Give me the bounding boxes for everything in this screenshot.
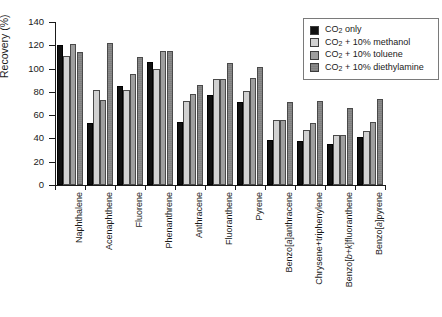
chart-figure: Recovery (%) 020406080100120140 Naphthal… bbox=[0, 0, 442, 317]
x-axis-category-label: Benzo[a]anthracene bbox=[284, 192, 294, 273]
legend-swatch bbox=[310, 26, 319, 35]
bar bbox=[327, 144, 333, 185]
bar bbox=[147, 62, 153, 185]
bar bbox=[117, 86, 123, 185]
bar bbox=[87, 123, 93, 185]
x-axis-category-label: Fluorene bbox=[134, 192, 144, 228]
bar bbox=[267, 140, 273, 185]
bar bbox=[333, 135, 339, 185]
legend-item: CO2 + 10% methanol bbox=[310, 37, 432, 50]
bar bbox=[107, 43, 113, 185]
y-tick-label: 60 bbox=[0, 109, 44, 120]
bar-group bbox=[57, 44, 84, 185]
bar bbox=[357, 137, 363, 185]
chart-legend: CO2 onlyCO2 + 10% methanolCO2 + 10% tolu… bbox=[303, 18, 439, 80]
bar bbox=[130, 74, 136, 185]
bar bbox=[317, 101, 323, 185]
legend-label: CO2 + 10% diethylamine bbox=[325, 62, 424, 74]
bar bbox=[160, 51, 166, 185]
y-tick-label: 0 bbox=[0, 179, 44, 190]
bar bbox=[213, 79, 219, 185]
bar-group bbox=[267, 102, 294, 185]
bar bbox=[57, 45, 63, 185]
bar bbox=[77, 52, 83, 185]
x-tick bbox=[145, 185, 146, 190]
bar-group bbox=[297, 101, 324, 185]
legend-swatch bbox=[310, 51, 319, 60]
legend-item: CO2 only bbox=[310, 24, 432, 37]
x-axis-category-label: Chrysene+triphenylene bbox=[314, 192, 324, 285]
y-tick-label: 40 bbox=[0, 132, 44, 143]
y-tick-label: 120 bbox=[0, 39, 44, 50]
x-axis-category-label: Benzo[b+k]fluoranthene bbox=[344, 192, 354, 287]
bar bbox=[190, 94, 196, 185]
bar bbox=[297, 141, 303, 185]
y-tick-label: 20 bbox=[0, 156, 44, 167]
y-tick-label: 80 bbox=[0, 86, 44, 97]
legend-item: CO2 + 10% diethylamine bbox=[310, 62, 432, 75]
bar bbox=[100, 100, 106, 185]
legend-label: CO2 + 10% methanol bbox=[325, 37, 410, 49]
bar bbox=[177, 122, 183, 185]
bar bbox=[257, 67, 263, 185]
legend-swatch bbox=[310, 38, 319, 47]
x-axis-line bbox=[55, 185, 386, 186]
bar bbox=[93, 90, 99, 185]
bar bbox=[220, 79, 226, 185]
bar bbox=[363, 131, 369, 185]
bar-group bbox=[117, 57, 144, 185]
bar-group bbox=[177, 85, 204, 185]
bar-group bbox=[327, 108, 354, 185]
bar bbox=[280, 120, 286, 185]
x-axis-category-label: Benzo[a]pyrene bbox=[374, 192, 384, 255]
x-tick bbox=[235, 185, 236, 190]
bar bbox=[167, 51, 173, 185]
bar bbox=[287, 102, 293, 185]
x-axis-category-label: Anthracene bbox=[194, 192, 204, 238]
bar-group bbox=[237, 67, 264, 185]
bar bbox=[243, 91, 249, 185]
x-axis-category-label: Fluoranthene bbox=[224, 192, 234, 245]
legend-swatch bbox=[310, 63, 319, 72]
bar bbox=[370, 122, 376, 185]
x-axis-category-label: Acenaphthene bbox=[104, 192, 114, 250]
x-tick bbox=[325, 185, 326, 190]
x-axis-category-label: Naphthalene bbox=[74, 192, 84, 243]
y-tick-label: 100 bbox=[0, 63, 44, 74]
bar bbox=[377, 99, 383, 185]
legend-label: CO2 only bbox=[325, 24, 361, 36]
bar bbox=[197, 85, 203, 185]
x-axis-category-label: Pyrene bbox=[254, 192, 264, 221]
x-tick bbox=[295, 185, 296, 190]
x-tick bbox=[175, 185, 176, 190]
bar-group bbox=[87, 43, 114, 185]
bar-group bbox=[207, 63, 234, 185]
x-tick bbox=[55, 185, 56, 190]
bar-group bbox=[357, 99, 384, 185]
bar bbox=[183, 101, 189, 185]
bar-group bbox=[147, 51, 174, 185]
bar bbox=[303, 130, 309, 185]
x-tick bbox=[265, 185, 266, 190]
x-tick bbox=[205, 185, 206, 190]
bar bbox=[237, 102, 243, 185]
bar bbox=[123, 90, 129, 185]
bar bbox=[250, 78, 256, 185]
bar bbox=[70, 44, 76, 185]
x-axis-category-label: Phenanthrene bbox=[164, 192, 174, 249]
x-tick bbox=[85, 185, 86, 190]
bar bbox=[310, 123, 316, 185]
legend-item: CO2 + 10% toluene bbox=[310, 49, 432, 62]
bar bbox=[207, 95, 213, 185]
bar bbox=[153, 69, 159, 185]
legend-label: CO2 + 10% toluene bbox=[325, 49, 403, 61]
bar bbox=[273, 120, 279, 185]
bar bbox=[137, 57, 143, 185]
bar bbox=[347, 108, 353, 185]
bar bbox=[227, 63, 233, 185]
bar bbox=[340, 135, 346, 185]
x-tick bbox=[355, 185, 356, 190]
bar bbox=[63, 56, 69, 185]
x-tick bbox=[385, 185, 386, 190]
x-tick bbox=[115, 185, 116, 190]
